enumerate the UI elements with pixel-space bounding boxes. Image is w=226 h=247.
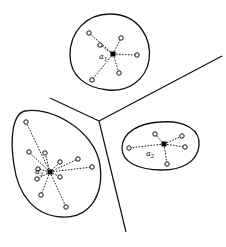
data-point-icon bbox=[27, 150, 31, 154]
separator-line bbox=[99, 121, 126, 232]
data-point-icon bbox=[58, 175, 62, 179]
distance-spoke bbox=[113, 54, 137, 55]
data-point-icon bbox=[165, 162, 169, 166]
cluster-label: a3 bbox=[35, 167, 44, 177]
data-point-icon bbox=[35, 177, 39, 181]
clustering-diagram: a1a2a3 bbox=[0, 0, 226, 247]
distance-spoke bbox=[164, 144, 167, 164]
data-point-icon bbox=[76, 157, 80, 161]
data-point-icon bbox=[90, 165, 94, 169]
data-point-icon bbox=[24, 120, 28, 124]
distance-spoke bbox=[164, 136, 182, 144]
cluster-left: a3 bbox=[12, 110, 101, 217]
cluster-boundary bbox=[122, 122, 199, 170]
data-point-icon bbox=[90, 78, 94, 82]
distance-spoke bbox=[113, 54, 119, 73]
distance-spoke bbox=[50, 159, 78, 172]
data-point-icon bbox=[87, 31, 91, 35]
cluster-center-icon bbox=[48, 170, 53, 175]
clusters: a1a2a3 bbox=[12, 14, 199, 217]
data-point-icon bbox=[180, 134, 184, 138]
cluster-label: a1 bbox=[99, 52, 107, 62]
cluster-top: a1 bbox=[70, 14, 149, 90]
cluster-boundary bbox=[12, 110, 101, 217]
data-point-icon bbox=[153, 132, 157, 136]
distance-spoke bbox=[129, 144, 164, 148]
data-point-icon bbox=[98, 43, 102, 47]
separator-line bbox=[50, 98, 99, 121]
cluster-center-icon bbox=[111, 52, 116, 57]
cluster-center-icon bbox=[162, 142, 167, 147]
data-point-icon bbox=[43, 151, 47, 155]
cluster-label: a2 bbox=[146, 149, 155, 159]
data-point-icon bbox=[135, 53, 139, 57]
cluster-right: a2 bbox=[122, 122, 199, 170]
data-point-icon bbox=[64, 205, 68, 209]
data-point-icon bbox=[127, 146, 131, 150]
data-point-icon bbox=[117, 71, 121, 75]
distance-spoke bbox=[26, 122, 50, 172]
data-point-icon bbox=[183, 145, 187, 149]
data-point-icon bbox=[39, 193, 43, 197]
data-point-icon bbox=[58, 160, 62, 164]
distance-spoke bbox=[164, 144, 185, 147]
separator-line bbox=[99, 56, 222, 121]
data-point-icon bbox=[119, 36, 123, 40]
